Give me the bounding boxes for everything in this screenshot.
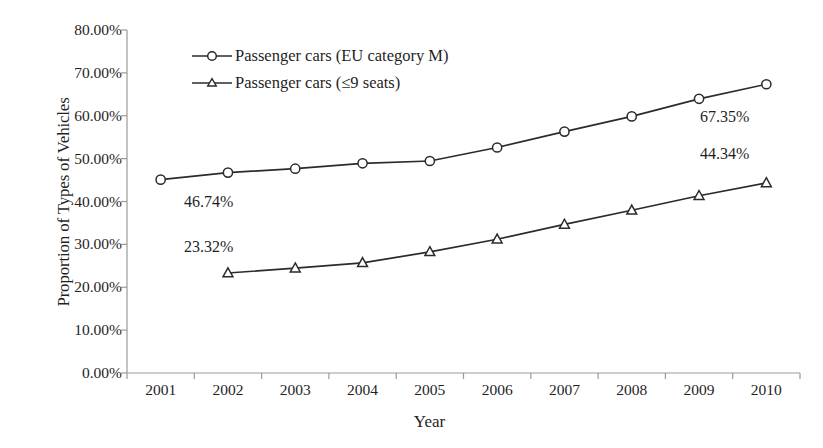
x-axis-tick-labels: 2001200220032004200520062007200820092010 bbox=[0, 381, 823, 407]
x-tick-label-2006: 2006 bbox=[482, 381, 513, 399]
data-point-0-3 bbox=[358, 159, 367, 168]
legend-triangle-marker-icon bbox=[190, 73, 234, 93]
x-tick-label-2007: 2007 bbox=[549, 381, 580, 399]
x-tick-label-2009: 2009 bbox=[684, 381, 715, 399]
x-tick-label-2004: 2004 bbox=[347, 381, 378, 399]
x-tick-label-2008: 2008 bbox=[616, 381, 647, 399]
series-lines bbox=[156, 80, 771, 277]
x-tick-label-2002: 2002 bbox=[212, 381, 243, 399]
data-point-0-6 bbox=[560, 127, 569, 136]
x-tick-label-2003: 2003 bbox=[280, 381, 311, 399]
data-point-0-5 bbox=[493, 143, 502, 152]
x-axis-title: Year bbox=[0, 412, 823, 432]
data-point-0-7 bbox=[627, 112, 636, 121]
data-point-0-2 bbox=[291, 164, 300, 173]
data-label-67-35: 67.35% bbox=[700, 108, 749, 126]
x-tick-label-2005: 2005 bbox=[414, 381, 445, 399]
data-point-0-1 bbox=[223, 168, 232, 177]
data-point-0-8 bbox=[694, 94, 703, 103]
legend-circle-marker-icon bbox=[190, 46, 234, 66]
legend-label-0: Passenger cars (EU category M) bbox=[235, 46, 449, 66]
legend-label-1: Passenger cars (≤9 seats) bbox=[235, 73, 400, 93]
series-line-0 bbox=[161, 84, 767, 179]
series-line-1 bbox=[228, 183, 766, 273]
data-point-0-4 bbox=[425, 156, 434, 165]
data-label-46-74: 46.74% bbox=[184, 193, 233, 211]
data-point-0-9 bbox=[762, 80, 771, 89]
data-label-23-32: 23.32% bbox=[184, 238, 233, 256]
data-label-44-34: 44.34% bbox=[700, 145, 749, 163]
x-axis-title-text: Year bbox=[414, 412, 445, 432]
x-tick-label-2001: 2001 bbox=[145, 381, 176, 399]
data-point-1-8 bbox=[761, 178, 771, 187]
x-tick-label-2010: 2010 bbox=[751, 381, 782, 399]
data-point-0-0 bbox=[156, 175, 165, 184]
legend-item-passenger-cars-9-seats: Passenger cars (≤9 seats) bbox=[190, 69, 449, 96]
line-chart: Proportion of Types of Vehicles 80.00%70… bbox=[0, 0, 823, 448]
legend: Passenger cars (EU category M) Passenger… bbox=[190, 42, 449, 96]
legend-item-passenger-cars-eu-category-m: Passenger cars (EU category M) bbox=[190, 42, 449, 69]
